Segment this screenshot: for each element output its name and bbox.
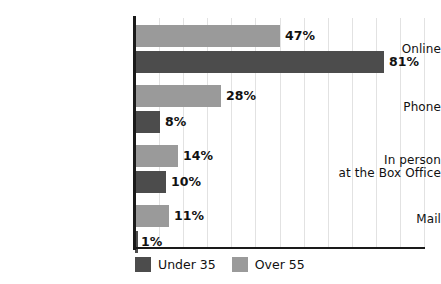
bar-inperson-under35	[135, 171, 166, 193]
legend-item-over55[interactable]: Over 55	[232, 257, 305, 272]
category-label-inperson-line2: at the Box Office	[313, 167, 441, 180]
bar-mail-over55	[135, 205, 169, 227]
bar-value-phone-over55: 28%	[226, 85, 256, 107]
category-label-phone: Phone	[313, 101, 441, 114]
bar-chart: 47% 81% 28% 8% 14% 10% 11% 1% Online Pho…	[0, 0, 441, 284]
legend-swatch-under35-icon	[135, 257, 151, 272]
legend-label-over55: Over 55	[255, 257, 305, 272]
bar-online-over55	[135, 25, 280, 47]
legend-item-under35[interactable]: Under 35	[135, 257, 216, 272]
bar-value-online-over55: 47%	[285, 25, 315, 47]
bar-value-inperson-under35: 10%	[171, 171, 201, 193]
chart-legend: Under 35 Over 55	[135, 257, 321, 272]
legend-swatch-over55-icon	[232, 257, 248, 272]
bar-value-mail-over55: 11%	[174, 205, 204, 227]
bar-inperson-over55	[135, 145, 178, 167]
y-axis-line	[133, 16, 136, 250]
bar-phone-over55	[135, 85, 221, 107]
category-label-online-line1: Online	[402, 42, 441, 56]
category-label-inperson: In person at the Box Office	[313, 154, 441, 180]
legend-label-under35: Under 35	[158, 257, 216, 272]
category-label-inperson-line1: In person	[384, 153, 441, 167]
x-axis-line	[133, 247, 425, 249]
category-label-mail: Mail	[313, 213, 441, 226]
category-label-mail-line1: Mail	[416, 212, 441, 226]
category-label-online: Online	[313, 43, 441, 56]
bar-phone-under35	[135, 111, 160, 133]
bar-value-inperson-over55: 14%	[183, 145, 213, 167]
bar-value-phone-under35: 8%	[165, 111, 186, 133]
category-label-phone-line1: Phone	[403, 100, 441, 114]
bar-value-mail-under35: 1%	[141, 231, 162, 253]
